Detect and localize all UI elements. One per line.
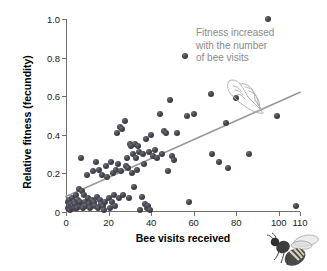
- data-point: [115, 161, 121, 167]
- data-point: [93, 159, 99, 165]
- data-point: [124, 155, 130, 161]
- data-point: [133, 155, 139, 161]
- x-tick: [300, 212, 301, 216]
- data-point: [216, 159, 222, 165]
- data-point: [118, 168, 124, 174]
- data-point: [163, 130, 169, 136]
- data-point: [225, 165, 231, 171]
- y-tick-label: 0.2: [47, 168, 60, 179]
- data-point: [78, 155, 84, 161]
- data-point: [174, 130, 180, 136]
- x-tick-label: 80: [231, 217, 241, 228]
- annotation-line-2: with the number: [196, 40, 308, 53]
- scatter-plot-figure: Relative fitness (fecundity) 00.20.40.60…: [0, 0, 327, 271]
- data-point: [184, 113, 190, 119]
- data-point: [137, 207, 143, 213]
- data-point: [112, 203, 118, 209]
- data-point: [141, 161, 147, 167]
- data-point: [134, 167, 140, 173]
- annotation-line-3: of bee visits: [196, 52, 308, 65]
- data-point: [140, 151, 146, 157]
- honeybee-illustration: [266, 232, 322, 270]
- data-point: [208, 91, 214, 97]
- data-point: [152, 147, 158, 153]
- data-point: [223, 120, 229, 126]
- y-axis-title: Relative fitness (fecundity): [21, 32, 33, 212]
- x-tick: [279, 212, 280, 216]
- annotation-line-1: Fitness increased: [196, 27, 308, 40]
- data-point: [159, 151, 165, 157]
- pointing-hand-icon: [222, 76, 268, 120]
- y-tick-label: 1.0: [47, 14, 60, 25]
- data-point: [126, 195, 132, 201]
- x-tick-label: 60: [188, 217, 198, 228]
- data-point: [157, 111, 163, 117]
- data-point: [119, 126, 125, 132]
- y-tick-label: 0.6: [47, 91, 60, 102]
- x-tick: [109, 212, 110, 216]
- y-tick-label: 0.4: [47, 129, 60, 140]
- x-axis-title: Bee visits received: [66, 232, 300, 244]
- x-tick: [194, 212, 195, 216]
- data-point: [182, 53, 188, 59]
- x-tick-label: 40: [146, 217, 156, 228]
- data-point: [274, 113, 280, 119]
- annotation-text: Fitness increased with the number of bee…: [196, 27, 308, 65]
- x-tick: [66, 212, 67, 216]
- x-tick-label: 110: [293, 217, 308, 228]
- data-point: [131, 184, 137, 190]
- y-tick-label: 0.8: [47, 52, 60, 63]
- data-point: [165, 168, 171, 174]
- x-tick-label: 0: [63, 217, 68, 228]
- data-point: [147, 207, 153, 213]
- data-point: [148, 132, 154, 138]
- x-tick-label: 100: [271, 217, 287, 228]
- data-point: [191, 111, 197, 117]
- data-point: [265, 16, 271, 22]
- data-point: [293, 203, 299, 209]
- data-point: [167, 97, 173, 103]
- data-point: [122, 118, 128, 124]
- y-tick-label: 0: [55, 207, 60, 218]
- data-point: [108, 159, 114, 165]
- data-point: [171, 157, 177, 163]
- data-point: [139, 194, 145, 200]
- data-point: [90, 168, 96, 174]
- x-tick-label: 20: [103, 217, 113, 228]
- data-point: [209, 151, 215, 157]
- x-tick: [236, 212, 237, 216]
- data-point: [246, 151, 252, 157]
- data-point: [186, 199, 192, 205]
